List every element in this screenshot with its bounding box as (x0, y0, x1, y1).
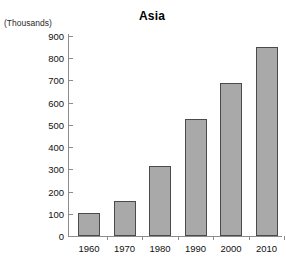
y-axis-tick (68, 236, 73, 237)
x-axis-tick (213, 236, 214, 240)
y-axis-tick (68, 214, 73, 215)
bar (78, 213, 100, 236)
y-axis-line (68, 34, 69, 237)
y-axis-label: 400 (22, 142, 64, 153)
x-axis-label: 1980 (149, 243, 170, 254)
y-axis-tick (68, 36, 73, 37)
plot-area: 0100200300400500600700800900 19601970198… (0, 0, 286, 271)
y-axis-label: 600 (22, 97, 64, 108)
y-axis-label: 100 (22, 208, 64, 219)
x-axis-tick (249, 236, 250, 240)
y-axis-tick (68, 169, 73, 170)
bar (220, 83, 242, 236)
y-axis-label: 700 (22, 75, 64, 86)
y-axis-tick (68, 80, 73, 81)
x-axis-tick (178, 236, 179, 240)
y-axis-tick (68, 103, 73, 104)
bar (256, 47, 278, 236)
bar (185, 119, 207, 236)
bar-chart: (Thousands) Asia 01002003004005006007008… (0, 0, 286, 271)
y-axis-label: 0 (22, 231, 64, 242)
x-axis-label: 1990 (185, 243, 206, 254)
x-axis-label: 2010 (256, 243, 277, 254)
y-axis-label: 300 (22, 164, 64, 175)
y-axis-tick (68, 125, 73, 126)
x-axis-line (68, 236, 282, 237)
x-axis-label: 1960 (78, 243, 99, 254)
bar (114, 201, 136, 236)
y-axis-label: 900 (22, 31, 64, 42)
y-axis-tick (68, 58, 73, 59)
x-axis-tick (284, 236, 285, 240)
y-axis-tick (68, 192, 73, 193)
y-axis-label: 800 (22, 53, 64, 64)
y-axis-label: 500 (22, 119, 64, 130)
x-axis-tick (107, 236, 108, 240)
x-axis-label: 2000 (220, 243, 241, 254)
x-axis-tick (142, 236, 143, 240)
x-axis-label: 1970 (114, 243, 135, 254)
y-axis-tick (68, 147, 73, 148)
y-axis-label: 200 (22, 186, 64, 197)
bar (149, 166, 171, 236)
